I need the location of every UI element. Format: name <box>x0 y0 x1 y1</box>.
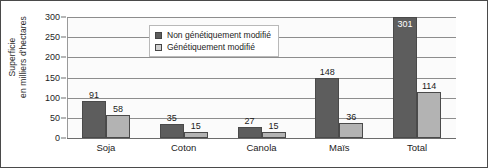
bar-value-label: 15 <box>176 121 216 131</box>
bar-total-series0 <box>393 17 417 138</box>
legend-swatch-icon-gm <box>155 44 162 51</box>
bar-value-label: 148 <box>307 67 347 77</box>
bar-total-series1 <box>417 92 441 138</box>
y-axis-tick-label: 150 <box>30 73 60 83</box>
bar-maïs-series1 <box>339 123 363 138</box>
y-axis-tick-mark <box>61 37 66 38</box>
bar-chart-figure: Superficie en milliers d'hectares 050100… <box>0 0 488 168</box>
x-axis-tick-label: Canola <box>222 142 302 153</box>
y-axis-tick-label: 100 <box>30 93 60 103</box>
bar-value-label: 301 <box>385 19 425 29</box>
bar-value-label: 91 <box>74 90 114 100</box>
x-axis-tick-labels: SojaCotonCanolaMaïsTotal <box>67 142 456 158</box>
bar-value-label: 36 <box>331 112 371 122</box>
bar-canola-series1 <box>262 132 286 138</box>
bar-group: 14836 <box>315 17 363 138</box>
y-axis-tick-mark <box>61 77 66 78</box>
figure-border-top <box>0 0 488 1</box>
y-axis-tick-label: 50 <box>30 113 60 123</box>
figure-border-bottom <box>0 167 488 168</box>
y-axis-tick-mark <box>61 138 66 139</box>
y-axis-title-line-2: en milliers d'hectares <box>18 2 29 112</box>
y-axis-tick-label: 300 <box>30 12 60 22</box>
legend-swatch-icon-non-gm <box>155 32 162 39</box>
bar-coton-series1 <box>184 132 208 138</box>
bar-group: 301114 <box>393 17 441 138</box>
x-axis-line <box>67 138 456 139</box>
legend-item-non-gm: Non génétiquement modifié <box>155 29 271 41</box>
y-axis-tick-label: 200 <box>30 52 60 62</box>
y-axis-tick-mark <box>61 57 66 58</box>
x-axis-tick-label: Total <box>377 142 457 153</box>
bar-soja-series1 <box>106 115 130 138</box>
x-axis-tick-label: Maïs <box>299 142 379 153</box>
figure-border-left <box>0 0 1 168</box>
y-axis-tick-label: 0 <box>30 133 60 143</box>
legend-item-gm: Génétiquement modifié <box>155 41 271 53</box>
y-axis-tick-mark <box>61 97 66 98</box>
bar-value-label: 15 <box>254 121 294 131</box>
bar-value-label: 114 <box>409 81 449 91</box>
bar-value-label: 58 <box>98 104 138 114</box>
legend-label-non-gm: Non génétiquement modifié <box>167 30 271 40</box>
y-axis-title-line-1: Superficie <box>7 2 18 112</box>
y-axis-tick-mark <box>61 117 66 118</box>
x-axis-tick-label: Coton <box>144 142 224 153</box>
bar-maïs-series0 <box>315 78 339 138</box>
x-axis-tick-label: Soja <box>66 142 146 153</box>
y-axis-tick-mark <box>61 17 66 18</box>
chart-legend: Non génétiquement modifié Génétiquement … <box>149 25 279 57</box>
legend-label-gm: Génétiquement modifié <box>167 42 255 52</box>
y-axis-tick-labels: 050100150200250300 <box>30 10 60 146</box>
bar-group: 9158 <box>82 17 130 138</box>
y-axis-tick-label: 250 <box>30 32 60 42</box>
